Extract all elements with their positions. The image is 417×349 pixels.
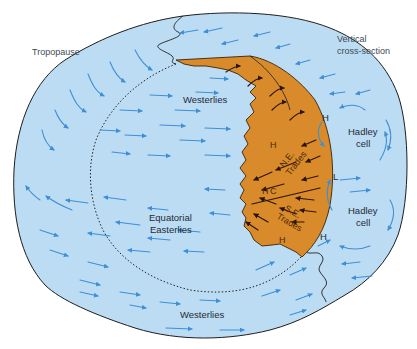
- high-section-north: H: [322, 112, 329, 123]
- tropopause-label: Tropopause: [32, 47, 80, 57]
- westerlies-south-label: Westerlies: [180, 309, 224, 320]
- high-band-south: H: [279, 235, 286, 245]
- hadley-cell-south-label-2: cell: [356, 217, 370, 228]
- atmospheric-circulation-diagram: Tropopause Vertical cross-section Wester…: [0, 0, 417, 349]
- equatorial-easterlies-label-1: Equatorial: [149, 212, 192, 223]
- westerlies-north-label: Westerlies: [183, 94, 227, 105]
- itc-label: ITC: [262, 186, 277, 196]
- equatorial-easterlies-label-2: Easterlies: [150, 224, 192, 235]
- vertical-section-label-1: Vertical: [337, 34, 367, 44]
- low-section: L: [333, 171, 338, 182]
- hadley-cell-north-label-2: cell: [356, 138, 370, 149]
- hadley-cell-south-label-1: Hadley: [348, 205, 378, 216]
- high-band-north: H: [270, 140, 277, 150]
- hadley-cell-north-label-1: Hadley: [348, 126, 378, 137]
- vertical-section-label-2: cross-section: [337, 46, 390, 56]
- high-section-south: H: [320, 231, 327, 242]
